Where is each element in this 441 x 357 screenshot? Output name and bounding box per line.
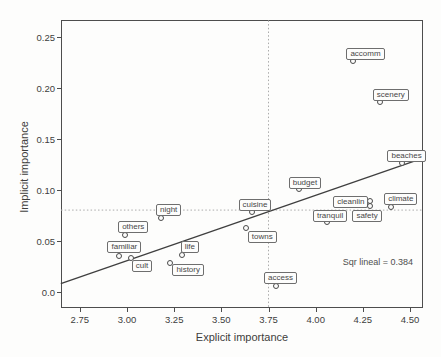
x-axis-title: Explicit importance <box>61 331 423 343</box>
point-label-access: access <box>264 272 297 284</box>
y-axis-tick <box>57 37 61 38</box>
point-label-cult: cult <box>132 260 152 272</box>
x-axis-tick-label: 3.00 <box>118 314 137 325</box>
point-label-cleanlin: cleanlin <box>333 196 368 208</box>
point-label-scenery: scenery <box>373 89 409 101</box>
x-axis-tick-label: 4.00 <box>306 314 325 325</box>
y-axis-tick <box>57 139 61 140</box>
point-label-climate: climate <box>384 193 417 205</box>
x-axis-tick <box>127 308 128 312</box>
x-axis-tick-label: 2.75 <box>71 314 90 325</box>
y-axis-tick-label: 0.05 <box>23 235 55 246</box>
x-axis-tick <box>221 308 222 312</box>
y-axis-tick-label: 0.25 <box>23 31 55 42</box>
x-axis-tick <box>363 308 364 312</box>
x-axis-tick <box>80 308 81 312</box>
point-label-others: others <box>118 221 148 233</box>
point-label-accomm: accomm <box>346 48 384 60</box>
point-label-safety: safety <box>352 210 381 222</box>
y-axis-title: Implicit importance <box>18 121 30 213</box>
point-label-towns: towns <box>248 231 277 243</box>
y-axis-tick <box>57 190 61 191</box>
figure: 2.753.003.253.503.754.004.254.500.00.050… <box>0 0 441 357</box>
point-label-budget: budget <box>289 177 321 189</box>
y-axis-tick-label: 0.20 <box>23 82 55 93</box>
x-axis-tick-label: 3.25 <box>165 314 184 325</box>
point-label-history: history <box>172 264 204 276</box>
x-axis-tick-label: 4.25 <box>354 314 373 325</box>
point-label-night: night <box>156 204 181 216</box>
y-axis-tick-label: 0.0 <box>23 286 55 297</box>
point-label-tranquil: tranquil <box>313 210 347 222</box>
x-axis-tick <box>316 308 317 312</box>
point-label-cuisine: cuisine <box>239 199 272 211</box>
x-axis-tick <box>174 308 175 312</box>
y-axis-tick <box>57 88 61 89</box>
fit-annotation: Sqr lineal = 0.384 <box>343 257 413 267</box>
x-axis-tick-label: 3.75 <box>259 314 278 325</box>
x-axis-tick-label: 4.50 <box>401 314 420 325</box>
point-label-life: life <box>181 241 199 253</box>
x-axis-tick <box>410 308 411 312</box>
y-axis-tick <box>57 292 61 293</box>
x-axis-tick-label: 3.50 <box>212 314 231 325</box>
point-label-familiar: familiar <box>107 241 141 253</box>
y-axis-tick <box>57 241 61 242</box>
point-label-beaches: beaches <box>387 150 425 162</box>
x-axis-tick <box>269 308 270 312</box>
